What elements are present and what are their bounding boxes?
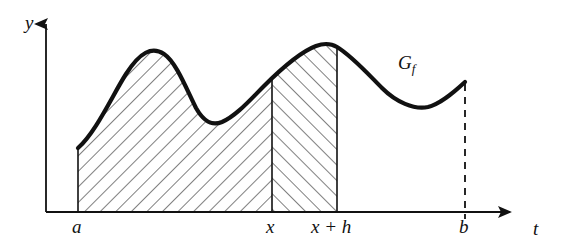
curve-label-base: G bbox=[398, 52, 412, 73]
t-axis-label: t bbox=[533, 218, 538, 240]
y-axis-label: y bbox=[25, 12, 33, 34]
region-a-to-x-fill bbox=[78, 51, 272, 212]
curve-label-gf: Gf bbox=[398, 52, 415, 77]
tick-label-b: b bbox=[459, 216, 469, 238]
tick-label-a: a bbox=[72, 216, 82, 238]
hatched-areas bbox=[78, 44, 337, 212]
integral-diagram-figure: y t a x x + h b Gf bbox=[0, 0, 563, 252]
tick-label-x-plus-h: x + h bbox=[311, 216, 351, 238]
curve-label-subscript: f bbox=[412, 61, 416, 76]
tick-label-x: x bbox=[266, 216, 274, 238]
diagram-canvas bbox=[0, 0, 563, 252]
